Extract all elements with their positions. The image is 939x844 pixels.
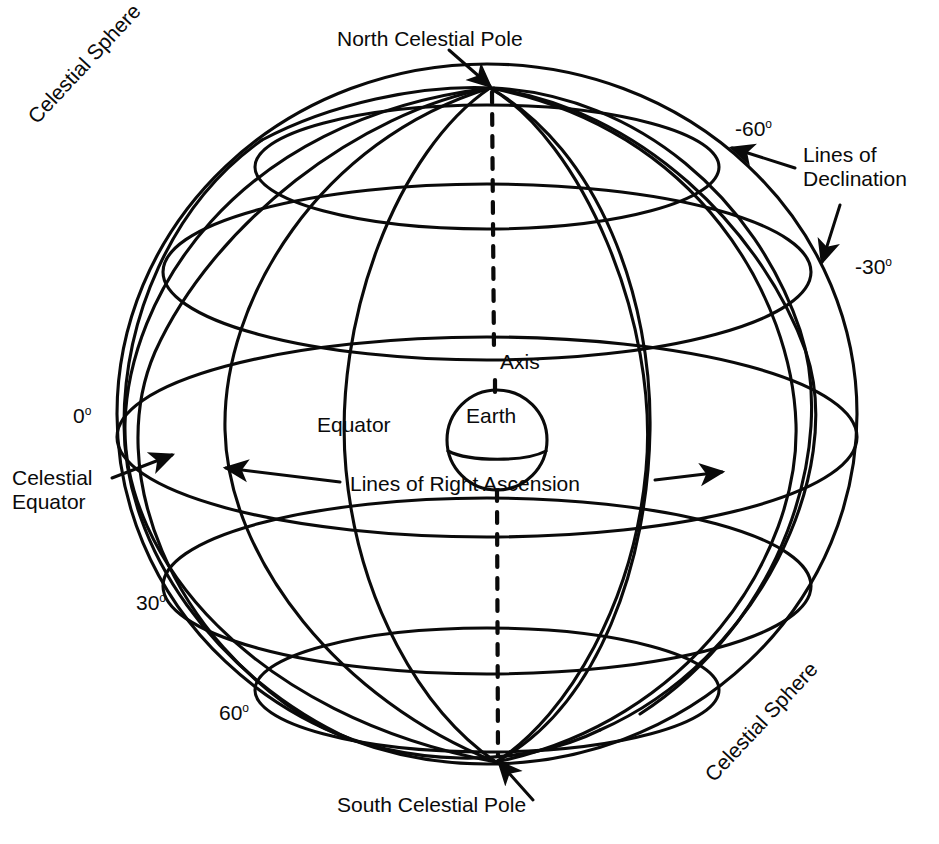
earth-equator-line	[448, 451, 546, 459]
label-celestial-equator: Celestial Equator	[12, 466, 93, 513]
meridian-line-5-left-descend	[124, 140, 352, 740]
label-lines-of-declination: Lines of Declination	[803, 143, 907, 190]
leader-declination-minus30	[822, 205, 840, 262]
degree-symbol: o	[242, 701, 249, 715]
declination-circle-0-celestial-equator	[117, 337, 857, 537]
label-declination-minus30: -30o	[855, 255, 892, 279]
leader-right-ascension-left	[226, 468, 340, 482]
axis-line-lower	[497, 490, 498, 756]
label-south-celestial-pole: South Celestial Pole	[337, 793, 526, 817]
leader-right-ascension-right	[655, 472, 722, 480]
label-declination-0: 0o	[73, 404, 91, 428]
degree-symbol: o	[159, 591, 166, 605]
axis-line-upper	[492, 92, 494, 352]
label-declination-60: 60o	[219, 701, 249, 725]
degree-symbol: o	[85, 404, 92, 418]
label-declination-30: 30o	[136, 591, 166, 615]
degree-symbol: o	[765, 117, 772, 131]
label-celestial-sphere-lower: Celestial Sphere	[700, 770, 854, 794]
label-lines-of-right-ascension: Lines of Right Ascension	[350, 472, 580, 496]
degree-symbol: o	[885, 255, 892, 269]
label-declination-minus60: -60o	[735, 117, 772, 141]
leader-north-celestial-pole	[449, 50, 490, 86]
label-north-celestial-pole: North Celestial Pole	[337, 27, 523, 51]
diagram-canvas: North Celestial Pole South Celestial Pol…	[0, 0, 939, 844]
label-earth: Earth	[466, 404, 516, 428]
declination-circle-minus60	[255, 105, 719, 229]
label-axis: Axis	[500, 350, 540, 374]
label-equator: Equator	[317, 413, 391, 437]
label-celestial-sphere-upper: Celestial Sphere	[23, 112, 177, 136]
